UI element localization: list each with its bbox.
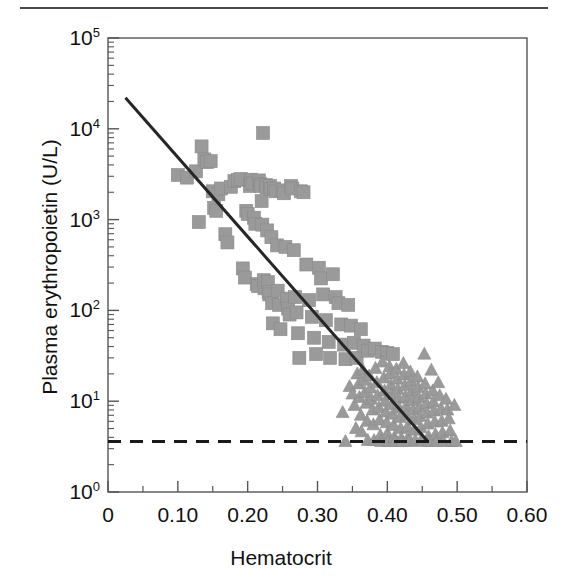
regression-line: [125, 98, 427, 442]
x-tick-label-6: 0.60: [490, 504, 562, 525]
y-tick-exponent: 0: [93, 479, 100, 494]
y-tick-label-10e0: 100: [42, 481, 100, 502]
series-anemic-patients: [171, 126, 399, 365]
y-tick-base: 10: [69, 117, 92, 140]
x-tick-label-4: 0.40: [350, 504, 424, 525]
y-tick-exponent: 2: [93, 297, 100, 312]
figure-panel: 100101102103104105 00.100.200.300.400.50…: [0, 0, 562, 585]
x-tick-label-3: 0.30: [281, 504, 355, 525]
y-tick-base: 10: [69, 480, 92, 503]
y-tick-base: 10: [69, 26, 92, 49]
y-tick-exponent: 5: [93, 25, 100, 40]
x-tick-label-1: 0.10: [141, 504, 215, 525]
y-tick-exponent: 1: [93, 388, 100, 403]
y-tick-label-10e5: 105: [42, 27, 100, 48]
x-tick-label-5: 0.50: [420, 504, 494, 525]
y-tick-exponent: 3: [93, 207, 100, 222]
x-tick-label-0: 0: [71, 504, 145, 525]
y-tick-exponent: 4: [93, 116, 100, 131]
y-tick-base: 10: [69, 208, 92, 231]
y-tick-base: 10: [69, 298, 92, 321]
y-axis-title: Plasma erythropoietin (U/L): [38, 57, 62, 477]
y-tick-base: 10: [69, 389, 92, 412]
x-axis-title: Hematocrit: [0, 546, 562, 570]
x-tick-label-2: 0.20: [211, 504, 285, 525]
